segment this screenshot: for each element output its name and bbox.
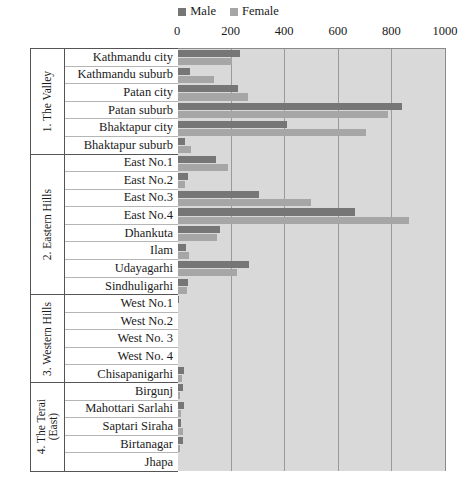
bar-female — [177, 164, 228, 171]
bar-row — [177, 436, 445, 454]
bar-male — [177, 68, 190, 75]
bar-male — [177, 138, 185, 145]
category-label: West No.2 — [65, 313, 178, 331]
bar-male — [177, 156, 216, 163]
bar-male — [177, 279, 188, 286]
bar-row — [177, 119, 445, 137]
bar-row — [177, 67, 445, 85]
category-group: 4. The Terai (East)BirgunjMahottari Sarl… — [31, 383, 178, 471]
x-axis-tick-label: 400 — [275, 24, 294, 39]
group-title: 3. Western Hills — [31, 295, 65, 382]
bar-row — [177, 102, 445, 120]
x-axis-tick-label: 0 — [174, 24, 180, 39]
bar-row — [177, 453, 445, 471]
group-title: 1. The Valley — [31, 49, 65, 154]
bar-female — [177, 234, 217, 241]
category-label: Birgunj — [65, 383, 178, 401]
bar-row — [177, 84, 445, 102]
bar-male — [177, 208, 355, 215]
legend-label-male: Male — [190, 4, 216, 19]
x-axis-tick-labels: 02004006008001000 — [0, 24, 457, 39]
bar-row — [177, 260, 445, 278]
bar-female — [177, 146, 191, 153]
bar-row — [177, 278, 445, 296]
gridline — [445, 49, 446, 471]
group-category-list: Kathmandu cityKathmandu suburbPatan city… — [65, 49, 178, 154]
category-label: Kathmandu city — [65, 49, 178, 67]
legend-swatch-male — [178, 8, 186, 16]
legend-label-female: Female — [242, 4, 279, 19]
category-label: West No. 4 — [65, 348, 178, 366]
category-label: Sindhuligarhi — [65, 278, 178, 296]
bar-row — [177, 330, 445, 348]
bar-male — [177, 103, 402, 110]
x-axis-tick-label: 800 — [382, 24, 401, 39]
category-label: Ilam — [65, 242, 178, 260]
category-label: West No. 3 — [65, 330, 178, 348]
bar-female — [177, 129, 366, 136]
bar-male — [177, 402, 184, 409]
bar-female — [177, 181, 185, 188]
bar-male — [177, 50, 240, 57]
bar-row — [177, 225, 445, 243]
bar-row — [177, 366, 445, 384]
category-label: Patan suburb — [65, 102, 178, 120]
legend-swatch-female — [230, 8, 238, 16]
bar-row — [177, 348, 445, 366]
group-title-text: 2. Eastern Hills — [41, 189, 53, 260]
bar-female — [177, 199, 311, 206]
group-category-list: BirgunjMahottari SarlahiSaptari SirahaBi… — [65, 383, 178, 471]
category-group: 3. Western HillsWest No.1West No.2West N… — [31, 295, 178, 383]
bar-female — [177, 217, 409, 224]
category-label: East No.2 — [65, 172, 178, 190]
category-label: Mahottari Sarlahi — [65, 401, 178, 419]
bar-row — [177, 155, 445, 173]
group-title-text: 1. The Valley — [41, 71, 53, 132]
bar-male — [177, 191, 259, 198]
bar-row — [177, 242, 445, 260]
category-label-table: 1. The ValleyKathmandu cityKathmandu sub… — [30, 48, 178, 472]
category-label: Birtanagar — [65, 436, 178, 454]
category-group: 1. The ValleyKathmandu cityKathmandu sub… — [31, 49, 178, 155]
bar-row — [177, 207, 445, 225]
group-title: 2. Eastern Hills — [31, 155, 65, 295]
category-label: East No.1 — [65, 155, 178, 173]
group-title-text: 4. The Terai (East) — [35, 399, 59, 454]
category-label: West No.1 — [65, 295, 178, 313]
category-label: Chisapanigarhi — [65, 365, 178, 383]
bar-female — [177, 93, 248, 100]
group-title: 4. The Terai (East) — [31, 383, 65, 471]
bar-male — [177, 85, 238, 92]
group-category-list: East No.1East No.2East No.3East No.4Dhan… — [65, 155, 178, 295]
group-title-text: 3. Western Hills — [41, 302, 53, 376]
legend-item-male: Male — [178, 4, 216, 19]
category-label: East No.3 — [65, 190, 178, 208]
bar-female — [177, 58, 232, 65]
category-label: Bhaktapur city — [65, 119, 178, 137]
bar-male — [177, 261, 249, 268]
bar-female — [177, 269, 237, 276]
bar-row — [177, 172, 445, 190]
category-group: 2. Eastern HillsEast No.1East No.2East N… — [31, 155, 178, 296]
bar-row — [177, 383, 445, 401]
category-label: East No.4 — [65, 207, 178, 225]
chart-legend: Male Female — [0, 4, 457, 19]
bar-row — [177, 418, 445, 436]
category-label: Dhankuta — [65, 225, 178, 243]
bar-female — [177, 287, 187, 294]
x-axis-tick-label: 600 — [328, 24, 347, 39]
group-category-list: West No.1West No.2West No. 3West No. 4Ch… — [65, 295, 178, 382]
bar-male — [177, 173, 188, 180]
bar-row — [177, 313, 445, 331]
bar-male — [177, 226, 220, 233]
bar-male — [177, 367, 184, 374]
bar-male — [177, 244, 186, 251]
category-label: Saptari Siraha — [65, 418, 178, 436]
category-label: Udayagarhi — [65, 260, 178, 278]
category-label: Kathmandu suburb — [65, 67, 178, 85]
category-label: Jhapa — [65, 453, 178, 471]
category-label: Patan city — [65, 84, 178, 102]
x-axis-tick-label: 200 — [221, 24, 240, 39]
bar-row — [177, 295, 445, 313]
